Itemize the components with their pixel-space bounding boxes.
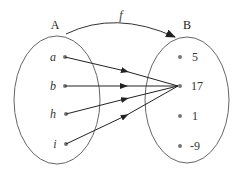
function-label: f — [119, 8, 124, 22]
element-label: 1 — [192, 109, 198, 123]
function-diagram: A B f a b h i 5 17 1 -9 — [0, 0, 237, 173]
domain-element-h: h — [50, 107, 68, 121]
mapping-arrow-i-17 — [66, 86, 178, 144]
codomain-element-1: 1 — [178, 109, 198, 123]
mapping-arrow-a-17 — [65, 57, 178, 86]
function-arrow — [66, 23, 175, 37]
set-a-ellipse — [14, 36, 100, 164]
element-dot — [178, 114, 182, 118]
element-label: a — [50, 50, 56, 64]
mapping-arrow-h-17 — [66, 86, 178, 114]
element-dot — [178, 144, 182, 148]
element-label: i — [53, 137, 56, 151]
element-label: b — [50, 79, 56, 93]
element-dot — [178, 55, 182, 59]
domain-element-i: i — [53, 137, 68, 151]
element-label: h — [50, 107, 56, 121]
element-dot — [178, 84, 182, 88]
domain-element-b: b — [50, 79, 67, 93]
set-b-label: B — [183, 18, 191, 32]
element-label: 5 — [192, 50, 198, 64]
codomain-element-neg9: -9 — [178, 139, 200, 153]
set-a-label: A — [51, 18, 60, 32]
codomain-element-17: 17 — [178, 79, 203, 93]
codomain-element-5: 5 — [178, 50, 198, 64]
element-label: -9 — [190, 139, 200, 153]
set-b-ellipse — [145, 37, 229, 163]
domain-element-a: a — [50, 50, 67, 64]
element-label: 17 — [191, 79, 203, 93]
